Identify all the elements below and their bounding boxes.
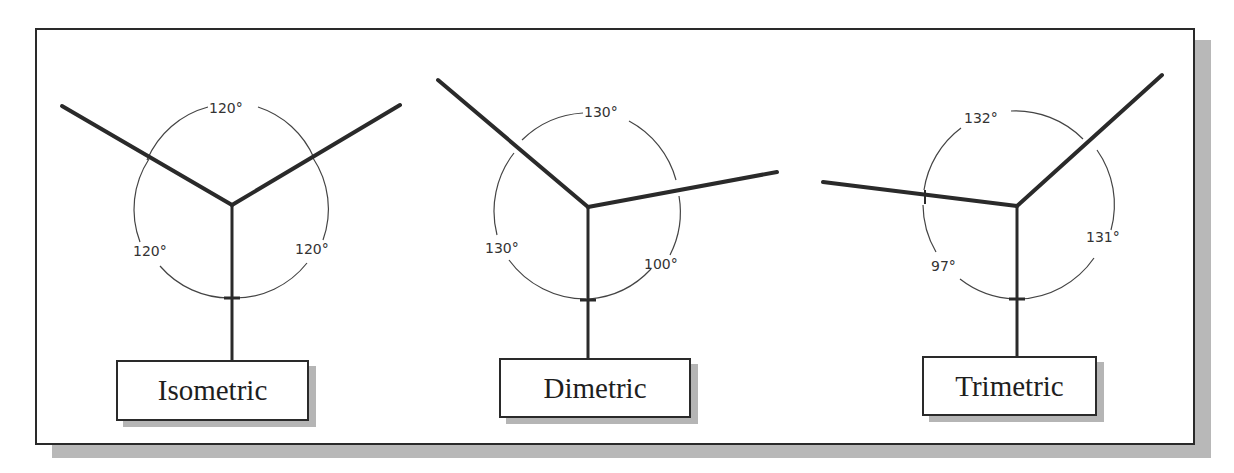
trimetric-right-angle: 131°: [1086, 229, 1120, 245]
isometric-right-angle: 120°: [295, 241, 329, 257]
trimetric-axes: 132° 97° 131°: [823, 75, 1162, 356]
dimetric-top-angle: 130°: [584, 104, 618, 120]
trimetric-left-angle: 97°: [931, 258, 956, 274]
isometric-axes: 120° 120° 120°: [62, 100, 400, 360]
isometric-top-angle: 120°: [209, 100, 243, 116]
dimetric-left-angle: 130°: [485, 240, 519, 256]
trimetric-top-angle: 132°: [964, 110, 998, 126]
dimetric-axes: 130° 130° 100°: [438, 80, 777, 358]
trimetric-label: Trimetric: [922, 356, 1097, 416]
dimetric-right-angle: 100°: [644, 256, 678, 272]
isometric-left-angle: 120°: [133, 243, 167, 259]
dimetric-label: Dimetric: [499, 358, 691, 418]
isometric-label: Isometric: [116, 360, 309, 421]
